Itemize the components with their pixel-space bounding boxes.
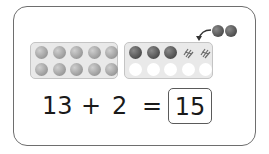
ten-frame-left — [30, 42, 118, 79]
counter-icon — [88, 46, 101, 59]
counter-icon — [147, 46, 160, 59]
counter-icon — [164, 46, 177, 59]
counter-icon — [70, 46, 83, 59]
counter-icon — [225, 25, 237, 37]
counter-icon — [105, 63, 118, 76]
answer-value: 15 — [169, 95, 211, 119]
counter-icon — [53, 46, 66, 59]
equation: 13 + 2 = 15 — [0, 88, 269, 124]
plus-sign: + — [81, 94, 101, 118]
empty-slot — [199, 63, 212, 76]
equals-sign: = — [142, 94, 162, 118]
counter-icon — [212, 25, 224, 37]
empty-slot — [129, 63, 142, 76]
answer-box: 15 — [168, 88, 212, 124]
empty-slot — [164, 63, 177, 76]
counter-icon — [35, 63, 48, 76]
scribble-counter-icon — [182, 46, 195, 59]
scribble-counter-icon — [199, 46, 212, 59]
counter-icon — [53, 63, 66, 76]
counter-icon — [105, 46, 118, 59]
addend-2: 2 — [112, 94, 127, 118]
arrow-icon — [193, 27, 213, 43]
counter-icon — [88, 63, 101, 76]
counter-icon — [35, 46, 48, 59]
addend-1: 13 — [42, 94, 73, 118]
ten-frame-right — [124, 42, 213, 79]
incoming-counters — [212, 25, 237, 37]
counter-icon — [129, 46, 142, 59]
counter-icon — [70, 63, 83, 76]
empty-slot — [147, 63, 160, 76]
empty-slot — [182, 63, 195, 76]
